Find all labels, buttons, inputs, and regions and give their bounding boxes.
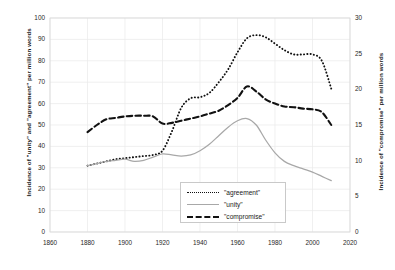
series-line-solid <box>88 118 332 180</box>
legend-swatch-dotted-icon <box>187 188 219 196</box>
legend-label-unity: "unity" <box>224 201 243 208</box>
legend-label-agreement: "agreement" <box>224 189 260 196</box>
plot-area <box>0 0 395 270</box>
legend-swatch-solid-icon <box>187 200 219 208</box>
legend-item-compromise: "compromise" <box>187 210 265 222</box>
legend-label-compromise: "compromise" <box>224 213 265 220</box>
chart-container: Incidence of "unity" and "agreement" per… <box>0 0 395 270</box>
legend-swatch-dashed-icon <box>187 212 219 220</box>
legend-item-agreement: "agreement" <box>187 186 260 198</box>
chart-legend: "agreement" "unity" "compromise" <box>180 182 286 223</box>
legend-item-unity: "unity" <box>187 198 243 210</box>
